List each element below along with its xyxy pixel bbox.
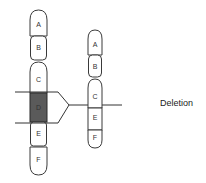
- result-segment-label-b: B: [93, 63, 98, 70]
- deletion-diagram: A B C D E F A B C E F: [0, 0, 206, 183]
- segment-label-a: A: [36, 21, 41, 28]
- segment-label-c: C: [36, 76, 41, 83]
- deletion-caption: Deletion: [160, 98, 193, 108]
- segment-label-d: D: [36, 104, 41, 111]
- result-segment-label-e: E: [93, 114, 98, 121]
- segment-label-b: B: [36, 44, 41, 51]
- result-segment-label-c: C: [92, 93, 97, 100]
- result-segment-label-f: F: [93, 134, 97, 141]
- segment-label-f: F: [36, 156, 40, 163]
- result-chromosome: A B C E F: [88, 30, 102, 148]
- segment-label-e: E: [36, 130, 41, 137]
- result-segment-label-a: A: [93, 41, 98, 48]
